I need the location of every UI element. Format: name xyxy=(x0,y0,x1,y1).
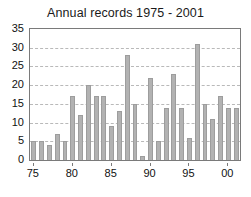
x-tick-mark xyxy=(150,163,151,166)
bar xyxy=(164,108,169,160)
y-tick-label: 15 xyxy=(12,97,24,108)
bar xyxy=(171,74,176,160)
bar xyxy=(31,141,36,160)
bar xyxy=(140,156,145,160)
bar xyxy=(234,108,239,160)
bar-series xyxy=(30,29,240,160)
x-tick-label: 80 xyxy=(66,168,78,179)
x-tick-label: 00 xyxy=(221,168,233,179)
y-tick-label: 0 xyxy=(18,154,24,165)
bar xyxy=(70,96,75,160)
x-tick-label: 75 xyxy=(27,168,39,179)
x-axis: 758085909500 xyxy=(29,163,241,181)
bar xyxy=(226,108,231,160)
bar xyxy=(195,44,200,160)
bar xyxy=(210,119,215,160)
bar xyxy=(78,115,83,160)
y-tick-label: 20 xyxy=(12,79,24,90)
chart-title: Annual records 1975 - 2001 xyxy=(0,6,251,20)
y-tick-label: 5 xyxy=(18,135,24,146)
bar xyxy=(63,141,68,160)
bar xyxy=(133,104,138,160)
bar xyxy=(179,108,184,160)
x-tick-mark xyxy=(72,163,73,166)
x-tick-label: 95 xyxy=(182,168,194,179)
bar xyxy=(47,145,52,160)
y-tick-label: 35 xyxy=(12,23,24,34)
plot-area xyxy=(29,28,241,161)
x-tick-mark xyxy=(227,163,228,166)
x-tick-label: 85 xyxy=(105,168,117,179)
bar xyxy=(117,111,122,160)
x-tick-label: 90 xyxy=(143,168,155,179)
bar xyxy=(86,85,91,160)
bar xyxy=(39,141,44,160)
bar xyxy=(109,126,114,160)
bar xyxy=(94,96,99,160)
bar xyxy=(125,55,130,160)
y-tick-label: 30 xyxy=(12,41,24,52)
bar-chart: Annual records 1975 - 2001 0510152025303… xyxy=(0,0,251,197)
bar xyxy=(148,78,153,160)
bar xyxy=(55,134,60,160)
y-tick-label: 10 xyxy=(12,116,24,127)
bar xyxy=(101,96,106,160)
bar xyxy=(218,96,223,160)
y-tick-label: 25 xyxy=(12,60,24,71)
bar xyxy=(203,104,208,160)
bar xyxy=(156,141,161,160)
x-tick-mark xyxy=(33,163,34,166)
x-tick-mark xyxy=(188,163,189,166)
y-axis: 05101520253035 xyxy=(0,28,26,161)
bar xyxy=(187,138,192,160)
x-tick-mark xyxy=(111,163,112,166)
